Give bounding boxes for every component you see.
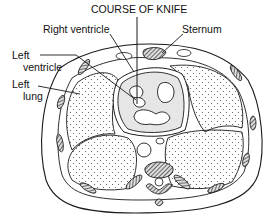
atrium-chamber: [158, 82, 174, 102]
esophagus: [156, 138, 164, 144]
label-left-ventricle-2: ventricle: [23, 62, 62, 73]
cartilage-right: [177, 50, 191, 57]
label-right-ventricle: Right ventricle: [43, 24, 110, 35]
spinal-canal: [155, 178, 163, 186]
rib: [250, 116, 256, 130]
label-left-lung-2: lung: [23, 91, 43, 102]
thorax-cross-section: [0, 0, 271, 219]
vertebral-body: [145, 162, 173, 178]
spinous-process: [155, 199, 163, 206]
label-sternum: Sternum: [182, 24, 222, 35]
title-course-of-knife: COURSE OF KNIFE: [91, 4, 187, 15]
label-left-ventricle-1: Left: [12, 50, 30, 61]
label-left-lung-1: Left: [12, 79, 30, 90]
lower-chamber: [134, 110, 170, 125]
aorta: [137, 143, 151, 157]
